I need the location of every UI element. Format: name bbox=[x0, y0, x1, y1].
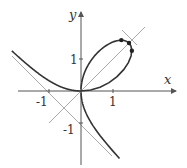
x-tick-label-1: 1 bbox=[109, 95, 117, 109]
y-axis-label: y bbox=[68, 7, 77, 22]
point-max-x-point bbox=[130, 48, 134, 52]
x-axis-label: x bbox=[164, 72, 172, 87]
y-tick-label-neg1: -1 bbox=[63, 123, 75, 137]
point-max-y-point bbox=[119, 38, 123, 42]
y-tick-label-1: 1 bbox=[70, 53, 78, 67]
x-tick-label-neg1: -1 bbox=[36, 95, 48, 109]
folium-diagram: x y -1 1 1 -1 bbox=[0, 0, 187, 168]
point-vertex bbox=[127, 41, 131, 45]
asymptote-line bbox=[12, 56, 112, 156]
symmetry-line bbox=[49, 27, 145, 123]
